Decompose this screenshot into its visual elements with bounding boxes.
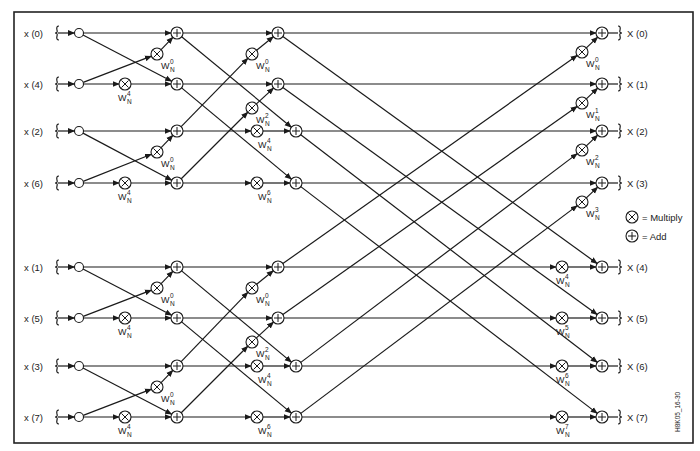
twiddle-s2-3-subscript: N	[267, 197, 272, 204]
twiddle-s2-7: W	[258, 426, 267, 436]
twiddle-s1-7-exponent: 4	[127, 423, 131, 430]
twiddle-s3-4-exponent: 4	[565, 273, 569, 280]
twiddle-s2-4: W	[256, 295, 265, 305]
twiddle-s2-2-exponent: 4	[267, 137, 271, 144]
twiddle-s3-7-exponent: 7	[565, 423, 569, 430]
brace-icon	[618, 124, 622, 138]
twiddle-s1-4: W	[161, 295, 170, 305]
input-node	[75, 127, 84, 136]
twiddle-s2-7-exponent: 6	[267, 423, 271, 430]
output-label-2: X (2)	[627, 126, 648, 137]
twiddle-s3-5-exponent: 5	[565, 324, 569, 331]
signal-wire	[586, 37, 597, 48]
twiddle-s1-1-subscript: N	[127, 98, 132, 105]
input-label-3: x (6)	[24, 178, 43, 189]
twiddle-s2-5: W	[256, 349, 265, 359]
signal-wire	[83, 56, 151, 82]
twiddle-s1-0-exponent: 0	[170, 58, 174, 65]
twiddle-s2-5-subscript: N	[265, 354, 270, 361]
twiddle-s2-0: W	[256, 61, 265, 71]
twiddle-s3-7: W	[556, 426, 565, 436]
twiddle-s1-3-subscript: N	[127, 197, 132, 204]
legend: = Multiply = Add	[626, 211, 683, 242]
signal-wire	[283, 37, 597, 264]
input-node	[75, 179, 84, 188]
input-label-5: x (5)	[24, 313, 43, 324]
signal-wire	[83, 389, 151, 415]
twiddle-s2-5-exponent: 2	[265, 346, 269, 353]
signal-wire	[257, 37, 274, 50]
twiddle-s1-6: W	[161, 394, 170, 404]
input-label-1: x (4)	[24, 79, 43, 90]
twiddle-s2-4-exponent: 0	[265, 292, 269, 299]
twiddle-s2-6-subscript: N	[267, 380, 272, 387]
input-node	[75, 29, 84, 38]
twiddle-s1-2: W	[161, 159, 170, 169]
twiddle-s1-7: W	[118, 426, 127, 436]
twiddle-s3-2-exponent: 2	[595, 154, 599, 161]
signal-wires	[58, 33, 618, 417]
signal-wire	[182, 88, 292, 179]
brace-icon	[618, 176, 622, 190]
brace-icon	[618, 26, 622, 40]
twiddle-s1-6-exponent: 0	[170, 391, 174, 398]
brace-icon	[618, 77, 622, 91]
twiddle-s3-1-exponent: 1	[595, 107, 599, 114]
input-label-6: x (3)	[24, 361, 43, 372]
twiddle-s3-3-subscript: N	[595, 214, 600, 221]
twiddle-s2-1-subscript: N	[265, 120, 270, 127]
signal-wire	[83, 154, 151, 181]
twiddle-s2-6: W	[258, 375, 267, 385]
input-label-2: x (2)	[24, 126, 43, 137]
twiddle-s1-3-exponent: 4	[127, 189, 131, 196]
twiddle-s2-1-exponent: 2	[265, 112, 269, 119]
twiddle-s3-0: W	[586, 59, 595, 69]
twiddle-s3-1-subscript: N	[595, 115, 600, 122]
twiddle-s1-4-exponent: 0	[170, 292, 174, 299]
legend-add-label: = Add	[642, 231, 667, 242]
output-label-1: X (1)	[627, 79, 648, 90]
signal-wire	[181, 292, 248, 361]
signal-wire	[586, 135, 597, 146]
twiddle-s1-2-exponent: 0	[170, 156, 174, 163]
twiddle-s3-5: W	[556, 327, 565, 337]
twiddle-s3-3: W	[586, 209, 595, 219]
twiddle-s2-6-exponent: 4	[267, 372, 271, 379]
output-label-7: X (7)	[627, 412, 648, 423]
twiddle-s1-0: W	[161, 61, 170, 71]
fft-butterfly-diagram: x (0)x (4)x (2)x (6)x (1)x (5)x (3)x (7)…	[0, 0, 700, 451]
twiddle-s2-2-subscript: N	[267, 145, 272, 152]
output-label-4: X (4)	[627, 262, 648, 273]
twiddle-s3-0-exponent: 0	[595, 56, 599, 63]
twiddle-s1-2-subscript: N	[170, 164, 175, 171]
twiddle-s3-6-exponent: 6	[565, 372, 569, 379]
signal-wire	[301, 154, 577, 363]
twiddle-s3-4: W	[556, 276, 565, 286]
signal-wire	[181, 58, 248, 126]
legend-multiply-label: = Multiply	[642, 212, 683, 223]
brace-icon	[618, 359, 622, 373]
twiddle-s1-1-exponent: 4	[127, 90, 131, 97]
signal-wire	[161, 271, 173, 283]
signal-wire	[283, 55, 577, 263]
twiddle-s2-1: W	[256, 115, 265, 125]
signal-wire	[83, 290, 151, 316]
twiddle-s3-2: W	[586, 157, 595, 167]
twiddle-s3-1: W	[586, 110, 595, 120]
input-node	[75, 80, 84, 89]
twiddle-s1-0-subscript: N	[170, 66, 175, 73]
signal-wire	[257, 271, 274, 284]
signal-wire	[586, 88, 597, 99]
figure-id: H8K05_16-30	[674, 392, 682, 432]
signal-wire	[283, 106, 577, 314]
brace-icon	[618, 311, 622, 325]
twiddle-s2-0-exponent: 0	[265, 58, 269, 65]
twiddle-s2-7-subscript: N	[267, 431, 272, 438]
signal-nodes	[75, 27, 609, 423]
twiddle-s1-5-subscript: N	[127, 332, 132, 339]
signal-wire	[182, 322, 292, 413]
signal-wire	[283, 88, 597, 315]
signal-wire	[181, 112, 248, 179]
twiddle-s1-6-subscript: N	[170, 399, 175, 406]
twiddle-s3-0-subscript: N	[595, 64, 600, 71]
